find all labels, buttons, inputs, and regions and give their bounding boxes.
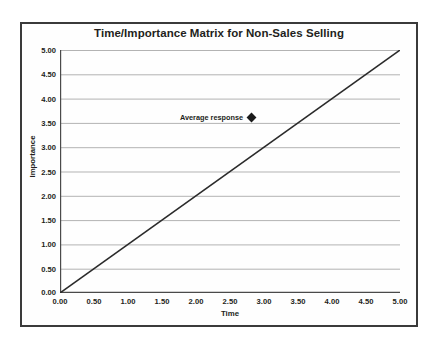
y-tick-label: 1.00 (22, 241, 56, 249)
chart-figure: Time/Importance Matrix for Non-Sales Sel… (0, 0, 438, 348)
plot-svg (60, 50, 400, 293)
chart-title: Time/Importance Matrix for Non-Sales Sel… (20, 25, 418, 41)
y-tick-label: 0.00 (22, 289, 56, 297)
diamond-marker-icon (247, 113, 257, 123)
x-axis-tick-labels: 0.00 0.50 1.00 1.50 2.00 2.50 3.00 3.50 … (60, 297, 400, 309)
y-tick-label: 5.00 (22, 47, 56, 55)
y-tick-label: 0.50 (22, 266, 56, 274)
y-tick-label: 4.00 (22, 96, 56, 104)
y-tick-label: 1.50 (22, 217, 56, 225)
y-axis-title: Importance (28, 122, 37, 192)
y-tick-label: 4.50 (22, 71, 56, 79)
annotation-average-response: Average response (180, 113, 255, 122)
x-tick-label: 5.00 (380, 297, 420, 306)
y-axis-tick-labels: 5.00 4.50 4.00 3.50 3.00 2.50 2.00 1.50 … (18, 50, 56, 293)
gridlines-horizontal (60, 51, 400, 270)
annotation-label: Average response (180, 113, 243, 122)
x-axis-title: Time (60, 309, 400, 318)
plot-area: Average response (60, 50, 400, 293)
y-tick-label: 2.00 (22, 193, 56, 201)
